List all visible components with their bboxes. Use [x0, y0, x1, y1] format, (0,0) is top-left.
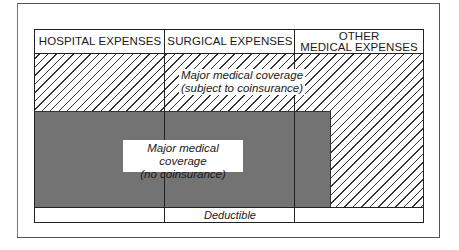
column-header-surgical-label: SURGICAL EXPENSES: [167, 36, 292, 47]
coinsurance-label-line1: Major medical coverage: [179, 69, 305, 82]
deductible-row: Deductible: [35, 207, 423, 222]
column-header-hospital: HOSPITAL EXPENSES: [35, 30, 165, 54]
deductible-label: Deductible: [165, 208, 295, 222]
column-header-other-line2: MEDICAL EXPENSES: [300, 42, 418, 53]
column-divider-2: [294, 30, 295, 222]
column-header-other: OTHER MEDICAL EXPENSES: [295, 30, 423, 54]
no-coinsurance-label-line2: (no coinsurance): [123, 168, 243, 181]
column-header-other-line1: OTHER: [339, 31, 380, 42]
column-header-hospital-label: HOSPITAL EXPENSES: [39, 36, 162, 47]
coinsurance-label: Major medical coverage (subject to coins…: [177, 69, 307, 95]
coinsurance-label-line2: (subject to coinsurance): [179, 82, 305, 95]
column-divider-1: [164, 30, 165, 222]
coverage-diagram: HOSPITAL EXPENSES SURGICAL EXPENSES OTHE…: [34, 29, 424, 223]
column-header-surgical: SURGICAL EXPENSES: [165, 30, 295, 54]
no-coinsurance-label-line1: Major medical coverage: [123, 142, 243, 168]
no-coinsurance-label: Major medical coverage (no coinsurance): [123, 140, 243, 172]
